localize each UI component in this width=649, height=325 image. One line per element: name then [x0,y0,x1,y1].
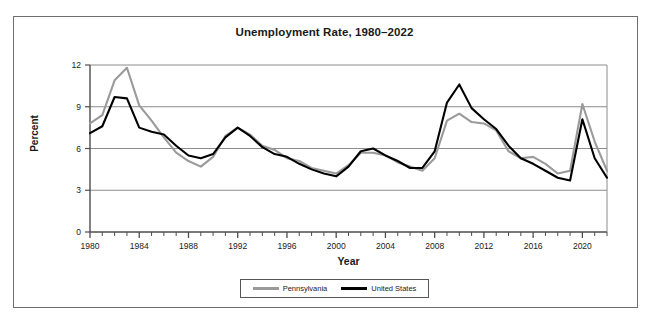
legend-item-united-states: United States [341,284,416,293]
x-tick-label: 1984 [130,241,149,251]
x-tick-label: 1992 [228,241,247,251]
x-tick-label: 1988 [179,241,198,251]
chart-legend: Pennsylvania United States [240,279,429,298]
x-tick-label: 2008 [425,241,444,251]
x-tick-label: 2000 [327,241,346,251]
legend-label-united-states: United States [371,284,416,293]
y-tick-label: 0 [76,227,81,237]
y-tick-label: 6 [76,144,81,154]
legend-swatch-united-states-icon [341,287,367,290]
x-tick-label: 1980 [81,241,100,251]
x-tick-label: 2004 [376,241,395,251]
x-tick-label: 2016 [524,241,543,251]
x-axis-label: Year [90,255,607,267]
legend-label-pennsylvania: Pennsylvania [283,284,328,293]
chart-figure: Unemployment Rate, 1980–2022 Percent 036… [0,0,649,325]
x-tick-label: 2020 [573,241,592,251]
legend-item-pennsylvania: Pennsylvania [253,284,328,293]
x-tick-label: 2012 [474,241,493,251]
y-tick-label: 9 [76,102,81,112]
y-tick-label: 3 [76,185,81,195]
y-tick-label: 12 [72,60,82,70]
plot-area: 0369121980198419881992199620002004200820… [0,0,649,325]
x-tick-label: 1996 [277,241,296,251]
series-line-pennsylvania [90,68,607,174]
legend-swatch-pennsylvania-icon [253,287,279,290]
series-line-united-states [90,84,607,180]
